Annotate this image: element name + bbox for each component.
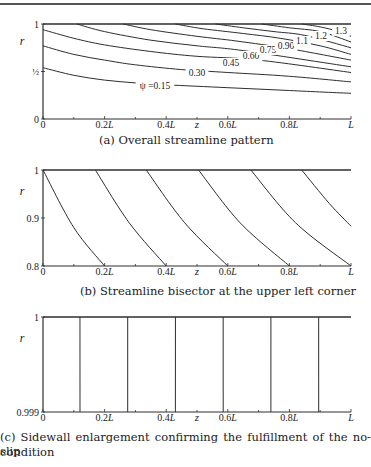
panel-a-plot: 00.2L0.4L0.6L0.8LLz0½1rψ =0.150.300.450.… bbox=[20, 19, 355, 131]
caption-b: (b) Streamline bisector at the upper lef… bbox=[80, 284, 356, 298]
y-tick-label: 0 bbox=[34, 114, 39, 125]
x-tick-label: 0 bbox=[41, 412, 46, 423]
y-tick-label: 0.8 bbox=[27, 261, 40, 272]
x-tick-label: 0.2L bbox=[96, 119, 115, 130]
panel-c-plot: 00.2L0.4L0.6L0.8LLz0.9991r bbox=[17, 312, 355, 424]
contour-label: 0.30 bbox=[189, 68, 206, 78]
x-tick-label: 0.6L bbox=[219, 119, 238, 130]
y-tick-label: 1 bbox=[34, 19, 39, 30]
x-tick-label: 0 bbox=[41, 119, 46, 130]
streamline bbox=[123, 24, 351, 60]
panel-b-plot: 00.2L0.4L0.6L0.8LLz0.80.91r bbox=[20, 165, 355, 278]
contour-label: 1.3 bbox=[335, 26, 347, 36]
streamline bbox=[95, 170, 166, 266]
y-tick-label: 0.999 bbox=[17, 407, 40, 418]
x-tick-label: 0.2L bbox=[96, 266, 115, 277]
x-axis-label: z bbox=[194, 118, 200, 130]
streamline bbox=[146, 170, 228, 266]
contour-label: 0.75 bbox=[260, 45, 277, 55]
contour-label: 0.45 bbox=[223, 58, 240, 68]
streamline bbox=[251, 170, 351, 266]
contour-label: 1.1 bbox=[296, 36, 308, 46]
caption-a: (a) Overall streamline pattern bbox=[99, 133, 274, 147]
x-tick-label: L bbox=[347, 412, 354, 423]
y-tick-label: 1 bbox=[34, 165, 39, 176]
x-tick-label: 0 bbox=[41, 266, 46, 277]
contour-label: ψ =0.15 bbox=[140, 81, 171, 91]
caption-c-line2: condition bbox=[0, 445, 54, 459]
x-tick-label: 0.8L bbox=[280, 412, 299, 423]
y-tick-label: ½ bbox=[32, 67, 39, 77]
x-tick-label: L bbox=[347, 266, 354, 277]
x-tick-label: L bbox=[347, 119, 354, 130]
y-tick-label: 0.9 bbox=[27, 213, 40, 224]
x-axis-label: z bbox=[194, 411, 200, 423]
x-tick-label: 0.6L bbox=[219, 412, 238, 423]
x-tick-label: 0.8L bbox=[280, 119, 299, 130]
x-tick-label: 0.6L bbox=[219, 266, 238, 277]
x-tick-label: 0.4L bbox=[157, 266, 176, 277]
x-tick-label: 0.4L bbox=[157, 412, 176, 423]
x-tick-label: 0.4L bbox=[157, 119, 176, 130]
y-axis-label: r bbox=[20, 331, 25, 345]
y-axis-label: r bbox=[20, 184, 25, 198]
streamline bbox=[43, 170, 105, 266]
contour-label: 0.90 bbox=[278, 41, 295, 51]
figure: 00.2L0.4L0.6L0.8LLz0½1rψ =0.150.300.450.… bbox=[0, 0, 371, 467]
x-axis-label: z bbox=[194, 265, 200, 277]
x-tick-label: 0.2L bbox=[96, 412, 115, 423]
y-tick-label: 1 bbox=[34, 312, 39, 323]
streamline bbox=[302, 170, 351, 226]
x-tick-label: 0.8L bbox=[280, 266, 299, 277]
contour-label: 1.2 bbox=[315, 31, 327, 41]
y-axis-label: r bbox=[20, 34, 25, 48]
caption-c-line1: (c) Sidewall enlargement confirming the … bbox=[0, 430, 371, 458]
